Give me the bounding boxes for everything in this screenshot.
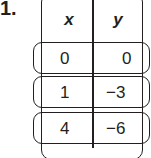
header-y: y	[93, 10, 143, 36]
table-row: 4 −6	[33, 112, 150, 144]
cell-y: 0	[122, 43, 131, 75]
table-row: 1 −3	[33, 76, 150, 108]
cell-x: 4	[60, 113, 69, 145]
cell-x: 1	[60, 77, 69, 109]
cell-x: 0	[60, 43, 69, 75]
header-x: x	[44, 10, 94, 36]
cell-y: −6	[106, 113, 125, 145]
table-row: 0 0	[33, 42, 150, 74]
cell-y: −3	[106, 77, 125, 109]
problem-number: 1.	[0, 0, 17, 18]
